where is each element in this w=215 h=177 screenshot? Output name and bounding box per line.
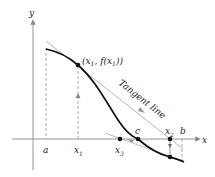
tick-x1: x1 — [74, 145, 83, 157]
arrow-down-icon — [168, 144, 172, 148]
tick-x3: x3 — [115, 145, 124, 157]
y-axis-label: y — [28, 8, 35, 18]
x-axis-label: x — [202, 135, 207, 145]
tick-c: c — [135, 126, 140, 136]
newton-method-diagram: y x a x1 x3 c x2 b (x1, f(x1)) Tangent l… — [0, 0, 215, 177]
point-x1-fx1 — [76, 63, 81, 68]
point-x2-fx2 — [168, 155, 173, 160]
tick-a: a — [43, 145, 48, 155]
tangent-arrow-icon — [138, 107, 145, 113]
point-x3 — [118, 137, 123, 142]
arrow-up-icon — [76, 93, 81, 98]
point-label-x1: (x1, f(x1)) — [82, 56, 123, 67]
point-c — [136, 137, 141, 142]
tangent-line-x2 — [105, 133, 152, 150]
tangent-line-label: Tangent line — [117, 78, 168, 121]
tick-b: b — [180, 126, 186, 136]
